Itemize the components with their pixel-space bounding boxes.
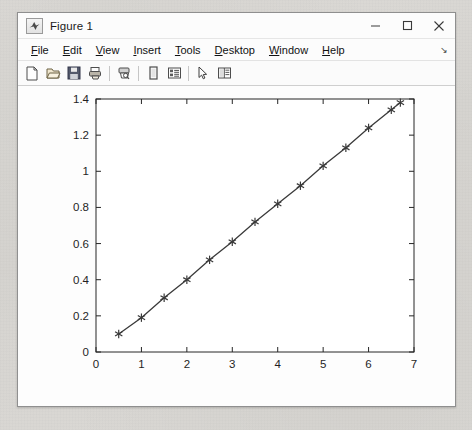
toolbar (18, 61, 455, 86)
window-title: Figure 1 (50, 20, 93, 32)
save-disk-icon[interactable] (64, 64, 84, 83)
menu-bar: File Edit View Insert Tools Desktop Wind… (18, 39, 455, 61)
matlab-icon (26, 18, 43, 34)
maximize-button[interactable] (391, 13, 423, 38)
menu-item-help[interactable]: Help (315, 42, 352, 58)
x-tick-label: 7 (411, 358, 417, 370)
y-tick-label: 0.8 (73, 201, 89, 213)
pointer-arrow-icon[interactable] (193, 64, 213, 83)
y-tick-label: 0.6 (73, 238, 89, 250)
window-controls (359, 13, 455, 38)
toolbar-separator (109, 66, 110, 81)
x-tick-label: 3 (229, 358, 235, 370)
menu-overflow-icon[interactable]: ↘ (440, 45, 448, 54)
menu-item-desktop[interactable]: Desktop (208, 42, 262, 58)
y-tick-label: 1 (83, 165, 89, 177)
figure-window: Figure 1 File Edit View (17, 12, 456, 407)
new-document-icon[interactable] (22, 64, 42, 83)
menu-item-tools[interactable]: Tools (168, 42, 208, 58)
menu-item-view[interactable]: View (89, 42, 127, 58)
title-bar: Figure 1 (18, 13, 455, 39)
y-tick-label: 1.4 (73, 93, 90, 105)
y-tick-label: 0.4 (73, 274, 90, 286)
x-tick-label: 1 (138, 358, 144, 370)
x-tick-label: 5 (320, 358, 326, 370)
y-tick-label: 0.2 (73, 310, 89, 322)
menu-item-edit[interactable]: Edit (56, 42, 89, 58)
open-folder-icon[interactable] (43, 64, 63, 83)
menu-item-file[interactable]: File (24, 42, 56, 58)
toolbar-separator (138, 66, 139, 81)
menu-item-window[interactable]: Window (262, 42, 315, 58)
toolbar-separator (188, 66, 189, 81)
x-tick-label: 6 (365, 358, 371, 370)
figure-canvas[interactable]: 0123456700.20.40.60.811.21.4 (18, 86, 455, 406)
y-tick-label: 0 (83, 346, 89, 358)
x-tick-label: 2 (184, 358, 190, 370)
colorbar-icon[interactable] (164, 64, 184, 83)
menu-item-insert[interactable]: Insert (126, 42, 168, 58)
plot-axes[interactable]: 0123456700.20.40.60.811.21.4 (18, 86, 455, 406)
print-preview-icon[interactable] (114, 64, 134, 83)
plot-tools-icon[interactable] (214, 64, 234, 83)
print-icon[interactable] (85, 64, 105, 83)
close-button[interactable] (423, 13, 455, 38)
x-tick-label: 4 (275, 358, 282, 370)
y-tick-label: 1.2 (73, 129, 89, 141)
x-tick-label: 0 (93, 358, 99, 370)
legend-icon[interactable] (143, 64, 163, 83)
minimize-button[interactable] (359, 13, 391, 38)
